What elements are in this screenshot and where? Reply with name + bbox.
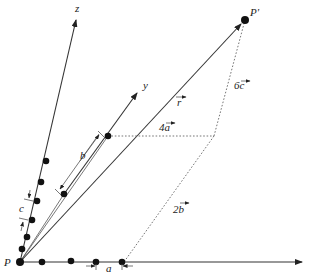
b-dimension-line xyxy=(60,134,99,189)
b-tick-bottom xyxy=(55,189,61,195)
c-tick-bottom xyxy=(19,218,28,220)
y-axis-label: y xyxy=(142,79,148,91)
a-label: a xyxy=(106,262,112,274)
six-c-dashed xyxy=(214,20,245,136)
z-axis-label: z xyxy=(74,2,80,14)
p-prime-label: P' xyxy=(249,6,260,18)
origin-label: P xyxy=(3,256,11,268)
p-to-y-line xyxy=(20,194,64,262)
r-vector xyxy=(20,24,241,262)
z-dot xyxy=(24,234,31,241)
r-vector-label: r xyxy=(177,96,182,108)
p-prime-dot xyxy=(241,16,249,24)
vector-diagram: P P' z y r a b c 4a 6c 2b xyxy=(0,0,311,280)
x-dot xyxy=(39,259,46,266)
p-to-y-line-2 xyxy=(20,136,108,262)
x-dot xyxy=(68,258,75,265)
c-arrow-top xyxy=(29,190,30,198)
z-dot xyxy=(38,179,45,186)
y-dot xyxy=(61,191,68,198)
two-b-dashed xyxy=(124,136,214,262)
z-dot xyxy=(19,246,26,253)
z-dot xyxy=(29,217,36,224)
origin-dot xyxy=(16,258,24,266)
two-b-label: 2b xyxy=(173,203,185,215)
b-label: b xyxy=(80,149,86,161)
z-axis xyxy=(20,20,76,262)
c-tick-top xyxy=(24,199,33,201)
y-axis xyxy=(64,93,137,194)
z-dot xyxy=(43,158,50,165)
c-label: c xyxy=(19,202,24,214)
z-dot xyxy=(34,198,41,205)
y-dot xyxy=(105,133,112,140)
c-arrow-bottom xyxy=(21,222,23,231)
